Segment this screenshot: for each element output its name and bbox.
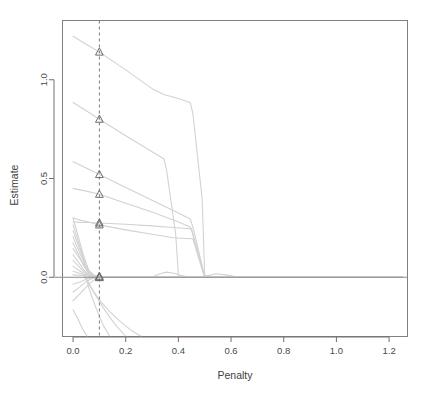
x-axis-tick-label: 0.8 xyxy=(277,345,290,356)
x-axis-tick-label: 0.0 xyxy=(66,345,79,356)
chart-background xyxy=(0,0,427,399)
y-axis-tick-label: 0.5 xyxy=(38,172,49,185)
y-axis-title: Estimate xyxy=(8,164,20,205)
regularization-path-chart: 0.00.20.40.60.81.01.2 0.00.51.0 Penalty … xyxy=(0,0,427,399)
x-axis-title: Penalty xyxy=(217,369,253,381)
x-axis-tick-label: 0.2 xyxy=(119,345,132,356)
y-axis-tick-label: 0.0 xyxy=(38,271,49,284)
x-axis-tick-label: 0.6 xyxy=(224,345,237,356)
x-axis-tick-label: 1.2 xyxy=(382,345,395,356)
y-axis-tick-label: 1.0 xyxy=(38,73,49,86)
x-axis-tick-label: 1.0 xyxy=(330,345,343,356)
x-axis-tick-label: 0.4 xyxy=(172,345,185,356)
